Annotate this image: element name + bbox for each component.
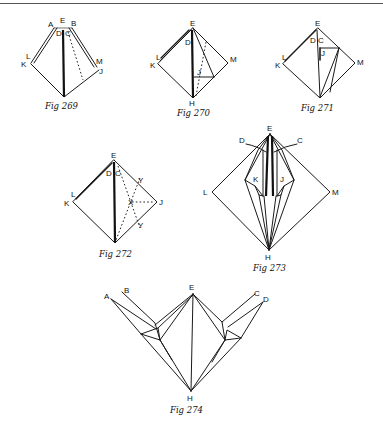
- label-K: K: [150, 61, 156, 70]
- label-E: E: [190, 19, 195, 28]
- label-K: K: [275, 61, 281, 70]
- label-Y-lower: Y: [138, 221, 144, 230]
- label-D: D: [310, 36, 316, 45]
- label-D: D: [106, 169, 112, 178]
- label-X: X: [128, 198, 134, 207]
- label-C: C: [65, 29, 71, 38]
- label-H: H: [265, 253, 271, 262]
- caption-fig-274: Fig 274: [169, 405, 203, 415]
- label-J: J: [280, 175, 284, 184]
- label-E: E: [267, 124, 272, 133]
- label-H: H: [189, 99, 195, 108]
- label-L: L: [71, 190, 76, 199]
- label-D: D: [263, 295, 269, 304]
- label-Y-upper: Y: [138, 176, 144, 185]
- label-C: C: [318, 36, 324, 45]
- figure-272: E D C L K Y X J Y Fig 272: [64, 151, 163, 259]
- label-B: B: [124, 286, 129, 295]
- label-M: M: [357, 58, 364, 67]
- caption-fig-270: Fig 270: [176, 108, 211, 118]
- label-J: J: [99, 67, 103, 76]
- caption-fig-272: Fig 272: [98, 249, 132, 259]
- label-L: L: [26, 52, 31, 61]
- label-K: K: [21, 60, 27, 69]
- label-E: E: [60, 16, 65, 25]
- label-M: M: [96, 57, 103, 66]
- label-K: K: [64, 199, 70, 208]
- label-A: A: [48, 20, 54, 29]
- label-B: B: [71, 19, 76, 28]
- label-K: K: [253, 175, 259, 184]
- figure-271: E D C L K J M Fig 271: [275, 19, 364, 113]
- label-C: C: [115, 169, 121, 178]
- label-J: J: [197, 68, 201, 77]
- label-E: E: [111, 151, 116, 160]
- label-D: D: [185, 38, 191, 47]
- label-J: J: [321, 49, 325, 58]
- label-L: L: [282, 53, 287, 62]
- figure-270: E D L K J M H Fig 270: [150, 19, 237, 118]
- label-D: D: [239, 136, 245, 145]
- label-H: H: [187, 394, 193, 403]
- label-A: A: [104, 292, 110, 301]
- label-C: C: [254, 289, 260, 298]
- label-D: D: [56, 29, 62, 38]
- label-L: L: [203, 188, 208, 197]
- label-E: E: [189, 283, 194, 292]
- figure-269: A E B D C L K M J Fig 269: [21, 16, 103, 111]
- origami-diagram-sheet: A E B D C L K M J Fig 269 E D L K J M H …: [0, 0, 383, 437]
- label-J: J: [159, 198, 163, 207]
- label-L: L: [156, 53, 161, 62]
- label-C: C: [297, 136, 303, 145]
- label-M: M: [230, 55, 237, 64]
- caption-fig-273: Fig 273: [252, 263, 286, 273]
- figure-273: E D C K J L M H Fig 273: [203, 124, 339, 273]
- caption-fig-269: Fig 269: [44, 101, 79, 111]
- label-E: E: [315, 19, 320, 28]
- label-M: M: [332, 188, 339, 197]
- caption-fig-271: Fig 271: [300, 103, 334, 113]
- figure-274: A B E C D H Fig 274: [104, 283, 269, 415]
